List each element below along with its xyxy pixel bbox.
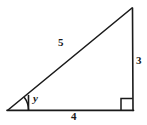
base-leg-length-label: 4 bbox=[71, 111, 77, 122]
hypotenuse-line bbox=[8, 8, 132, 110]
hypotenuse-length-label: 5 bbox=[58, 37, 64, 48]
vertical-leg-length-label: 3 bbox=[136, 55, 142, 66]
right-angle-marker bbox=[121, 99, 133, 111]
angle-y-label: y bbox=[33, 93, 38, 104]
triangle-diagram bbox=[0, 0, 147, 125]
vertical-leg-line bbox=[133, 8, 134, 111]
right-triangle-figure: 5 3 4 y bbox=[0, 0, 147, 125]
